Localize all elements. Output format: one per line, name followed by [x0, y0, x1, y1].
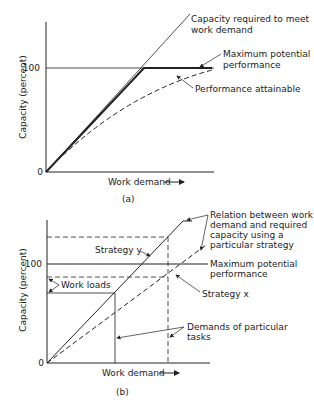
label-strategy-y: Strategy y [95, 245, 142, 255]
label-strategy-x: Strategy x [202, 289, 249, 299]
pointer-arrow-icon [177, 76, 193, 88]
x-axis-label-a: Work demand [108, 177, 171, 187]
label-max-potential-a-2: performance [223, 60, 281, 70]
label-demands-2: tasks [187, 332, 211, 342]
x-axis-label-b: Work demand [102, 368, 165, 378]
tick-0-a: 0 [37, 167, 43, 177]
label-relation-3: capacity using a [210, 230, 284, 240]
pointer-arrow-icon [201, 215, 208, 250]
label-max-potential-a: Maximum potential [223, 49, 310, 59]
chart-b: 100 0 Capacity (percent) Work demand (b)… [18, 210, 314, 397]
y-axis-label-b: Capacity (percent) [18, 248, 28, 332]
strategy-y-line [47, 221, 192, 363]
label-max-potential-b-2: performance [210, 269, 268, 279]
label-demands: Demands of particular [187, 322, 288, 332]
label-max-potential-b: Maximum potential [210, 259, 297, 269]
label-relation-4: particular strategy [210, 240, 294, 250]
caption-b: (b) [116, 387, 129, 397]
tick-0-b: 0 [38, 358, 44, 368]
pointer-arrow-icon [200, 54, 221, 67]
pointer-arrow-icon [49, 285, 59, 292]
label-relation-1: Relation between work [210, 210, 314, 220]
label-relation-2: demand and required [210, 220, 307, 230]
caption-a: (a) [122, 194, 135, 204]
figure-canvas: 100 0 Capacity (percent) Work demand (a)… [0, 0, 314, 415]
label-capacity-required: Capacity required to meet [191, 14, 309, 24]
y-axis-label-a: Capacity (percent) [18, 55, 28, 139]
chart-a: 100 0 Capacity (percent) Work demand (a)… [18, 14, 310, 204]
label-capacity-required-2: work demand [191, 25, 253, 35]
strategy-x-line [47, 245, 206, 363]
label-performance-attainable: Performance attainable [195, 84, 301, 94]
pointer-arrow-icon [49, 279, 59, 285]
label-work-loads: Work loads [61, 280, 111, 290]
pointer-arrow-icon [187, 215, 208, 220]
pointer-arrow-icon [117, 327, 184, 338]
pointer-arrow-icon [176, 275, 200, 292]
